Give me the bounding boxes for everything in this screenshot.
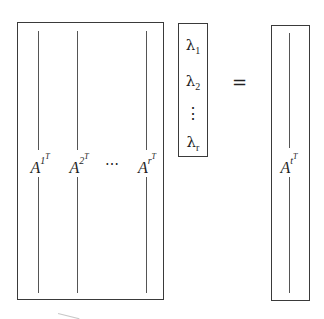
lambda-2: λ2 — [186, 72, 201, 92]
result-label: AtT — [280, 156, 297, 176]
column-ellipsis: ⋯ — [105, 156, 120, 172]
lambda-2-index: 2 — [195, 81, 200, 92]
equals-sign: = — [232, 72, 247, 93]
lambda-1: λ1 — [186, 36, 201, 56]
column-2-line-bottom — [77, 177, 78, 293]
lambda-1-base: λ — [186, 36, 196, 54]
lambda-1-index: 1 — [195, 45, 200, 56]
column-r-label: ArT — [138, 156, 156, 176]
scan-artifact — [58, 313, 80, 319]
column-r-line-bottom — [146, 177, 147, 293]
lambda-r: λr — [187, 133, 200, 153]
column-2-base: A — [69, 159, 79, 176]
column-r-line-top — [146, 31, 147, 150]
column-2-line-top — [77, 31, 78, 150]
column-r-base: A — [138, 159, 148, 176]
column-1-line-top — [38, 31, 39, 150]
result-line-top — [289, 33, 290, 148]
result-base: A — [280, 159, 290, 176]
lambda-2-base: λ — [186, 72, 196, 90]
column-1-transpose: T — [45, 152, 49, 161]
column-2-transpose: T — [84, 152, 88, 161]
column-2-label: A2T — [69, 156, 88, 176]
lambda-r-index: r — [196, 142, 199, 153]
result-line-bottom — [289, 177, 290, 293]
lambda-r-base: λ — [187, 133, 197, 151]
column-r-transpose: T — [152, 152, 156, 161]
column-1-label: A1T — [30, 156, 49, 176]
column-1-line-bottom — [38, 177, 39, 293]
vector-vdots: ⋮ — [185, 106, 201, 122]
column-1-base: A — [30, 159, 40, 176]
result-transpose: T — [293, 152, 297, 161]
